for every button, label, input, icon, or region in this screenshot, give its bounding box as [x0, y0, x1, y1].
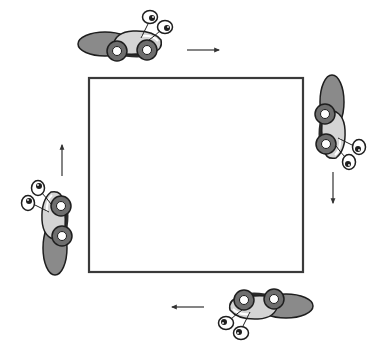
car-bottom — [219, 289, 314, 340]
car-left — [22, 181, 73, 276]
car-top — [78, 11, 173, 62]
race-track-diagram — [0, 0, 387, 363]
car-right — [315, 75, 366, 170]
square-track — [89, 78, 303, 272]
